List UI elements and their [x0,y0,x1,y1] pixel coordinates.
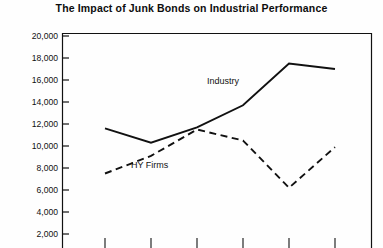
chart-figure: The Impact of Junk Bonds on Industrial P… [0,0,383,248]
series-annotation-hy-firms: HY Firms [131,160,168,170]
series-annotation-industry: Industry [207,76,239,86]
x-axis-ticks [105,238,335,248]
y-axis-ticks [63,36,70,234]
plot-area [0,0,383,248]
